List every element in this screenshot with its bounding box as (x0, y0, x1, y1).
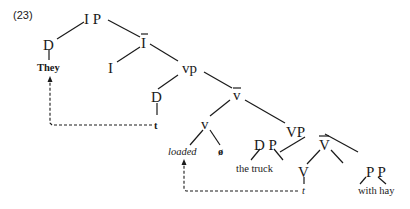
arrowhead-icon (48, 76, 53, 82)
arrowhead-icon (182, 159, 187, 165)
node-VP: VP (286, 124, 305, 140)
node-vp: vp (182, 60, 197, 76)
word-the-truck: the truck (236, 163, 274, 174)
word-with-hay: with hay (358, 185, 395, 196)
node-V: V (298, 164, 309, 180)
tree-edges (49, 20, 386, 184)
node-v: v (201, 116, 209, 132)
node-V-bar: V (319, 137, 330, 153)
syntax-tree-diagram: (23) I P D They I I vp D t v (0, 0, 410, 209)
example-number: (23) (13, 9, 33, 21)
null-head: ø (218, 146, 223, 157)
node-D-subject: D (43, 37, 54, 53)
node-I: I (108, 60, 113, 76)
node-I-bar: I (141, 35, 146, 51)
node-PP: P P (366, 164, 386, 180)
word-They: They (37, 62, 61, 73)
node-D-trace: D (151, 89, 162, 105)
trace-subject: t (154, 120, 158, 131)
node-v-bar: v (233, 87, 241, 103)
node-IP: I P (84, 11, 101, 27)
word-loaded: loaded (168, 146, 197, 157)
subject-movement-path (50, 80, 152, 125)
node-DP: D P (254, 137, 277, 153)
trace-verb: t (302, 185, 306, 196)
